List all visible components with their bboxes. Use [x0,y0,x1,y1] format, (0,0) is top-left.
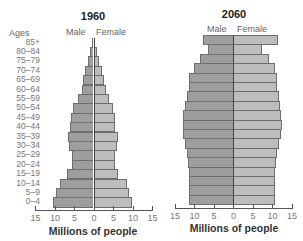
chart-title-1960: 1960 [81,10,105,22]
x-tick-label-1960: 15 [30,213,40,223]
x-tick-label-1960: 0 [91,213,96,223]
center-line-2060 [233,35,234,205]
x-tick-1960 [74,206,75,211]
legend-male-1960: Male [66,27,86,37]
center-line-1960 [94,38,95,208]
x-tick-1960 [113,206,114,211]
x-tick-label-2060: 5 [250,211,255,221]
chart-title-2060: 2060 [222,8,246,20]
x-tick-label-2060: 15 [287,211,297,221]
age-label: 0–4 [0,197,40,206]
age-label: 40–44 [0,122,40,131]
age-label: 65–69 [0,75,40,84]
bar-female-2060 [233,195,275,205]
x-tick-label-1960: 15 [147,213,157,223]
x-tick-label-2060: 0 [231,211,236,221]
x-axis-label-1960: Millions of people [49,225,138,237]
legend-male-2060: Male [207,24,227,34]
x-tick-2060 [194,204,195,209]
x-tick-2060 [272,204,273,209]
x-tick-label-2060: 10 [267,211,277,221]
x-tick-1960 [152,206,153,211]
x-tick-1960 [133,206,134,211]
x-tick-2060 [292,204,293,209]
legend-female-1960: Female [96,27,126,37]
age-label: 50–54 [0,103,40,112]
x-tick-label-1960: 5 [111,213,116,223]
x-tick-1960 [94,206,95,211]
x-tick-label-1960: 10 [128,213,138,223]
x-tick-2060 [175,204,176,209]
bar-male-2060 [189,195,233,205]
x-tick-2060 [233,204,234,209]
x-tick-label-1960: 10 [50,213,60,223]
x-tick-label-2060: 10 [189,211,199,221]
x-tick-label-2060: 15 [170,211,180,221]
x-axis-label-2060: Millions of people [190,222,279,234]
x-tick-1960 [55,206,56,211]
x-tick-2060 [253,204,254,209]
age-label: 15–19 [0,169,40,178]
age-label: 75–79 [0,56,40,65]
x-tick-label-2060: 5 [211,211,216,221]
legend-female-2060: Female [237,24,267,34]
x-tick-1960 [35,206,36,211]
age-label: 25–29 [0,150,40,159]
x-tick-label-1960: 5 [72,213,77,223]
x-tick-2060 [214,204,215,209]
